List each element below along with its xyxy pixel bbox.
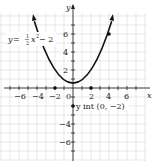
curve-arrow-right-icon <box>110 14 115 21</box>
x-tick-label: −6 <box>14 92 26 101</box>
y-axis-label: y <box>65 3 71 12</box>
svg-text:− 2: − 2 <box>39 35 53 44</box>
svg-text:1: 1 <box>26 33 29 39</box>
x-tick-label: −4 <box>32 92 44 101</box>
curve-arrow-left-icon <box>32 14 37 21</box>
y-tick-label: −6 <box>59 138 71 147</box>
origin-label: 0 <box>66 92 71 101</box>
parabola-graph: y x −6 −4 −2 0 2 4 6 6 4 2 −4 −6 y = 1 2… <box>0 0 156 161</box>
x-tick-label: −2 <box>49 92 61 101</box>
y-intercept-annotation: y int (0, −2) <box>75 102 125 111</box>
equation-label: y = 1 2 x 2 − 2 <box>6 32 56 46</box>
y-tick-label: 2 <box>63 66 68 75</box>
x-tick-label: 6 <box>124 92 129 101</box>
point-4-6 <box>107 32 111 36</box>
y-tick-label: 4 <box>63 48 68 57</box>
y-axis-arrow-icon <box>71 4 75 9</box>
point-x-intercept-left <box>53 86 57 90</box>
point-x-intercept-right <box>89 86 93 90</box>
x-tick-label: 2 <box>89 92 94 101</box>
x-axis-label: x <box>147 91 152 100</box>
chart-canvas: y x −6 −4 −2 0 2 4 6 6 4 2 −4 −6 y = 1 2… <box>0 0 156 161</box>
x-tick-label: 4 <box>106 92 111 101</box>
svg-text:=: = <box>13 35 20 44</box>
y-tick-label: 6 <box>63 30 68 39</box>
svg-text:2: 2 <box>26 40 29 46</box>
point-y-intercept <box>71 104 75 108</box>
y-tick-label: −4 <box>59 120 71 129</box>
